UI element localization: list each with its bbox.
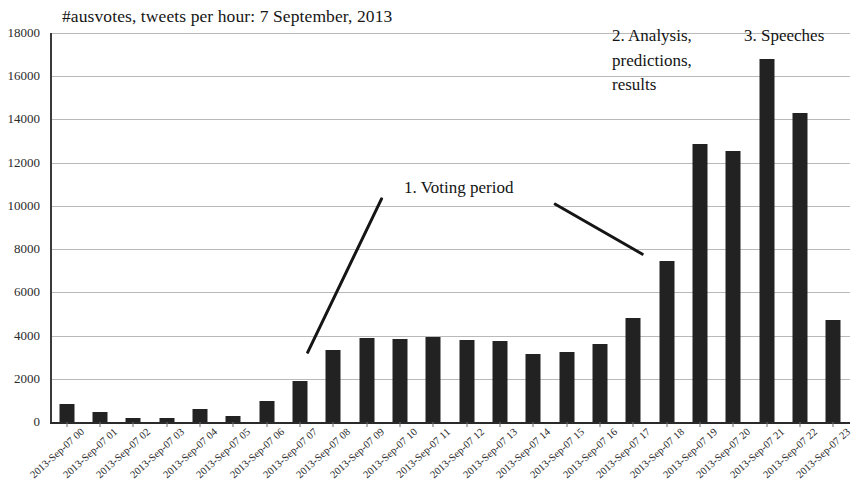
bar-slot (483, 33, 516, 422)
bar (559, 352, 574, 422)
bar (726, 151, 741, 422)
bar (759, 59, 774, 422)
y-tick-label-2000: 2000 (14, 371, 40, 387)
bar-slot (250, 33, 283, 422)
bar-slot (817, 33, 850, 422)
bar-slot (783, 33, 816, 422)
bar (92, 412, 107, 422)
bar-slot (150, 33, 183, 422)
bar (192, 409, 207, 422)
bar (292, 381, 307, 422)
bar-slot (217, 33, 250, 422)
bar-slot (550, 33, 583, 422)
bar (626, 318, 641, 422)
bar (792, 113, 807, 422)
bar-chart: #ausvotes, tweets per hour: 7 September,… (0, 0, 854, 500)
x-axis-labels: 2013-Sep-07 002013-Sep-07 012013-Sep-07 … (50, 424, 850, 500)
bar-slot (450, 33, 483, 422)
bar (659, 261, 674, 422)
y-tick-label-0: 0 (34, 414, 41, 430)
y-tick-label-4000: 4000 (14, 328, 40, 344)
y-tick-label-14000: 14000 (8, 111, 41, 127)
bar (259, 401, 274, 422)
annotation-analysis: 2. Analysis, predictions, results (612, 24, 732, 98)
bar (359, 338, 374, 422)
bar (426, 337, 441, 422)
bar-slot (183, 33, 216, 422)
chart-title: #ausvotes, tweets per hour: 7 September,… (62, 6, 392, 27)
bar (526, 354, 541, 422)
bar (459, 340, 474, 422)
bar (492, 341, 507, 422)
y-tick-label-8000: 8000 (14, 241, 40, 257)
bar (592, 344, 607, 422)
bar-slot (517, 33, 550, 422)
bar (326, 350, 341, 422)
y-axis-labels: 0200040006000800010000120001400016000180… (0, 33, 46, 422)
bar (59, 404, 74, 422)
bar-slot (750, 33, 783, 422)
y-tick-label-12000: 12000 (8, 155, 41, 171)
bar-slot (83, 33, 116, 422)
bar-slot (50, 33, 83, 422)
bar (826, 320, 841, 422)
annotation-speeches: 3. Speeches (744, 24, 824, 49)
y-tick-label-10000: 10000 (8, 198, 41, 214)
annotation-voting-period: 1. Voting period (404, 176, 513, 201)
y-tick-label-6000: 6000 (14, 284, 40, 300)
bar-slot (283, 33, 316, 422)
bar (692, 144, 707, 422)
bar-slot (117, 33, 150, 422)
bar-slot (317, 33, 350, 422)
bar-slot (383, 33, 416, 422)
bar (392, 339, 407, 422)
y-tick-label-16000: 16000 (8, 68, 41, 84)
bar-slot (417, 33, 450, 422)
y-tick-label-18000: 18000 (8, 25, 41, 41)
